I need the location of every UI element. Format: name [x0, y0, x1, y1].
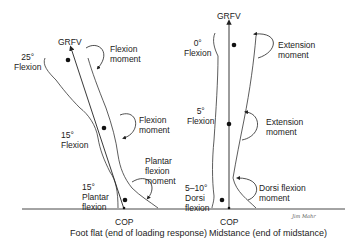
gait-diagram: [0, 0, 363, 244]
right-ankle-moment-arrow: [238, 178, 257, 200]
left-hip-angle-label: 25° Flexion: [14, 52, 41, 72]
right-hip-joint: [232, 43, 237, 48]
right-leg-outline: [212, 33, 256, 208]
left-knee-moment-arrow: [120, 114, 136, 138]
left-knee-angle-label: 15° Flexion: [61, 130, 88, 150]
right-grfv-label: GRFV: [217, 11, 241, 21]
right-ankle-angle-label: 5–10° Dorsi flexion: [185, 183, 210, 213]
left-caption: Foot flat (end of loading response): [70, 228, 207, 238]
left-hip-moment-label: Flexion moment: [110, 44, 141, 64]
left-ankle-moment-label: Plantar flexion moment: [145, 156, 176, 186]
right-cop-point: [228, 207, 231, 210]
left-hip-moment-arrow: [86, 45, 104, 68]
right-knee-moment-arrow: [242, 112, 258, 140]
right-hip-moment-arrow: [255, 34, 273, 58]
right-ankle-joint: [220, 198, 225, 203]
artist-signature: Jim Mahr: [292, 211, 316, 221]
right-knee-angle-label: 5° Flexion: [187, 106, 214, 126]
left-hip-joint: [66, 58, 71, 63]
right-ankle-moment-label: Dorsi flexion moment: [259, 183, 306, 203]
right-hip-moment-label: Extension moment: [278, 40, 315, 60]
left-knee-moment-label: Flexion moment: [139, 115, 170, 135]
left-ankle-angle-label: 15° Plantar flexion: [82, 182, 109, 212]
right-hip-angle-label: 0° Flexion: [184, 38, 211, 58]
left-knee-joint: [102, 126, 107, 131]
left-cop-label: COP: [115, 217, 133, 227]
right-knee-joint: [227, 122, 232, 127]
left-ankle-joint: [123, 198, 128, 203]
right-knee-moment-label: Extension moment: [266, 117, 303, 137]
left-cop-point: [123, 207, 126, 210]
right-caption: Midstance (end of midstance): [209, 228, 327, 238]
left-grfv-label: GRFV: [58, 37, 82, 47]
right-cop-label: COP: [220, 217, 238, 227]
